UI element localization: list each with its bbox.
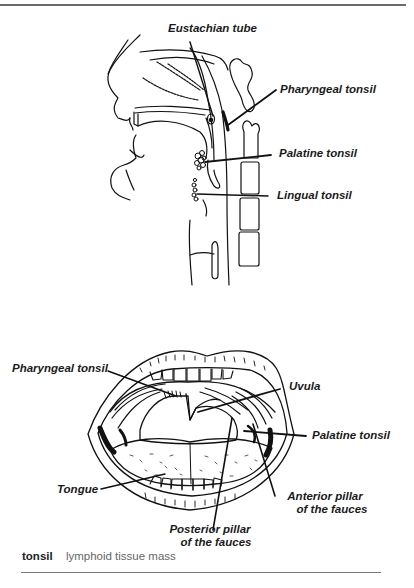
- definition-entry: tonsil lymphoid tissue mass: [22, 550, 176, 562]
- label-posterior-pillar-line2: of the fauces: [163, 536, 257, 549]
- label-tongue: Tongue: [57, 483, 98, 496]
- definition-meaning: lymphoid tissue mass: [66, 550, 176, 562]
- label-anterior-pillar-line1: Anterior pillar: [280, 490, 370, 503]
- label-anterior-pillar: Anterior pillar of the fauces: [280, 490, 370, 516]
- label-uvula: Uvula: [289, 380, 320, 393]
- bottom-rule: [21, 572, 381, 573]
- label-posterior-pillar-line1: Posterior pillar: [163, 523, 257, 536]
- label-palatine-tonsil-mouth: Palatine tonsil: [312, 429, 390, 442]
- definition-term: tonsil: [22, 550, 53, 562]
- label-anterior-pillar-line2: of the fauces: [280, 503, 370, 516]
- label-pharyngeal-tonsil-mouth: Pharyngeal tonsil: [12, 362, 108, 375]
- label-posterior-pillar: Posterior pillar of the fauces: [163, 523, 257, 549]
